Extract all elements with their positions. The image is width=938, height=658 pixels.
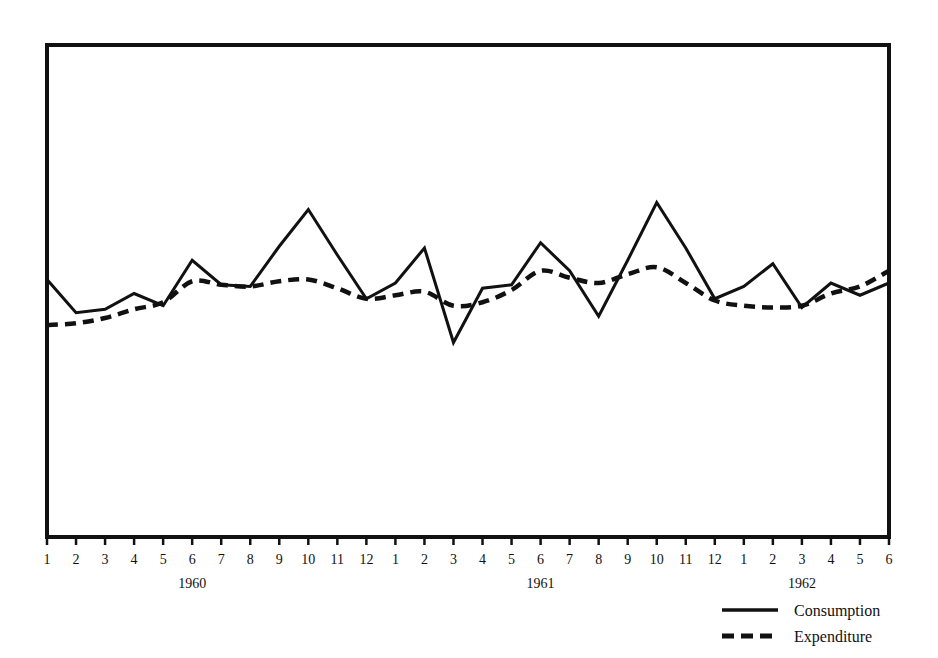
x-tick-label: 8 (247, 552, 254, 567)
x-tick-label: 6 (189, 552, 196, 567)
x-tick-label: 3 (798, 552, 805, 567)
x-tick-label: 1 (392, 552, 399, 567)
x-tick-label: 5 (160, 552, 167, 567)
x-tick-label: 2 (73, 552, 80, 567)
x-year-label: 1962 (788, 576, 816, 591)
x-tick-label: 11 (331, 552, 344, 567)
x-tick-label: 5 (508, 552, 515, 567)
x-tick-label: 1 (740, 552, 747, 567)
x-tick-label: 3 (450, 552, 457, 567)
legend-label-expenditure: Expenditure (794, 628, 872, 646)
x-year-label: 1960 (178, 576, 206, 591)
x-tick-label: 1 (44, 552, 51, 567)
x-tick-label: 2 (421, 552, 428, 567)
line-chart: 123456789101112123456789101112123456 196… (0, 0, 938, 658)
series-line-consumption (47, 203, 889, 343)
data-series-group (47, 203, 889, 343)
legend-label-consumption: Consumption (794, 602, 880, 620)
x-tick-label: 8 (595, 552, 602, 567)
figure-container: 123456789101112123456789101112123456 196… (0, 0, 938, 658)
x-tick-label: 12 (708, 552, 722, 567)
x-tick-label: 2 (769, 552, 776, 567)
x-tick-label: 5 (856, 552, 863, 567)
x-tick-label: 7 (566, 552, 573, 567)
x-tick-label: 12 (359, 552, 373, 567)
x-tick-label: 9 (276, 552, 283, 567)
x-tick-label: 10 (301, 552, 315, 567)
x-tick-label: 10 (650, 552, 664, 567)
x-year-label: 1961 (527, 576, 555, 591)
x-tick-label: 7 (218, 552, 225, 567)
x-tick-label: 9 (624, 552, 631, 567)
x-axis-year-labels: 196019611962 (178, 576, 816, 591)
x-tick-label: 4 (827, 552, 834, 567)
x-tick-label: 11 (679, 552, 692, 567)
x-tick-label: 3 (102, 552, 109, 567)
chart-legend: ConsumptionExpenditure (722, 602, 880, 646)
x-tick-label: 6 (537, 552, 544, 567)
x-tick-label: 6 (886, 552, 893, 567)
x-axis-tick-labels: 123456789101112123456789101112123456 (44, 552, 893, 567)
x-tick-label: 4 (479, 552, 486, 567)
x-tick-label: 4 (131, 552, 138, 567)
